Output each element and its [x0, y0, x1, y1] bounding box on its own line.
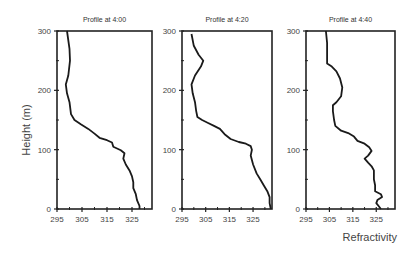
- panel-3: Profile at 4:400100200300295305315325: [287, 16, 395, 224]
- refractivity-profiles-chart: Height (m) Refractivity Profile at 4:000…: [0, 0, 417, 257]
- x-tick-label: 295: [50, 215, 64, 224]
- y-tick-label: 200: [38, 86, 52, 95]
- panel-title: Profile at 4:40: [329, 16, 372, 23]
- panel-title: Profile at 4:20: [205, 16, 248, 23]
- profile-line: [192, 34, 271, 209]
- x-tick-label: 315: [100, 215, 114, 224]
- x-tick-label: 325: [125, 215, 139, 224]
- y-tick-label: 0: [296, 205, 301, 214]
- y-tick-label: 100: [163, 146, 177, 155]
- y-tick-label: 200: [287, 86, 301, 95]
- x-tick-label: 295: [175, 215, 189, 224]
- y-tick-label: 300: [163, 27, 177, 36]
- panel-2: Profile at 4:200100200300295305315325: [163, 16, 272, 224]
- x-tick-label: 305: [323, 215, 337, 224]
- profile-line: [326, 31, 382, 209]
- profile-line: [66, 31, 140, 209]
- y-tick-label: 300: [38, 27, 52, 36]
- panel-1: Profile at 4:000100200300295305315325: [38, 16, 152, 224]
- x-tick-label: 305: [199, 215, 213, 224]
- plot-frame: [57, 31, 152, 209]
- panel-title: Profile at 4:00: [83, 16, 126, 23]
- x-tick-label: 315: [346, 215, 360, 224]
- plot-frame: [306, 31, 395, 209]
- plot-frame: [182, 31, 272, 209]
- y-tick-label: 100: [287, 146, 301, 155]
- y-axis-label: Height (m): [20, 104, 32, 155]
- x-tick-label: 305: [75, 215, 89, 224]
- x-tick-label: 325: [370, 215, 384, 224]
- y-tick-label: 0: [47, 205, 52, 214]
- y-tick-label: 200: [163, 86, 177, 95]
- y-tick-label: 0: [172, 205, 177, 214]
- x-tick-label: 325: [246, 215, 260, 224]
- x-tick-label: 315: [223, 215, 237, 224]
- x-tick-label: 295: [299, 215, 313, 224]
- y-tick-label: 300: [287, 27, 301, 36]
- y-tick-label: 100: [38, 146, 52, 155]
- x-axis-label: Refractivity: [343, 231, 398, 243]
